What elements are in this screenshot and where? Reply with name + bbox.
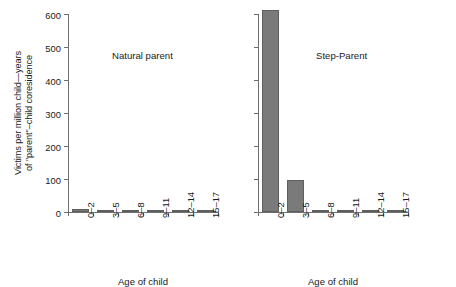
y-tick-label-0: 0 [56,207,61,218]
panel-natural-parent: 0100200300400500600 0–23–56–89–1112–1415… [68,14,218,212]
y-tick-label-300: 300 [45,108,61,119]
y-tick-400: 400 [64,80,68,81]
y-tick-100 [254,179,258,180]
y-tick-label-400: 400 [45,75,61,86]
x-label-3–5: 3–5 [300,202,311,218]
plot-area-step-parent [258,14,408,212]
y-tick-200: 200 [64,146,68,147]
panel-title-natural-parent: Natural parent [112,50,173,61]
y-tick-label-100: 100 [45,174,61,185]
x-label-3–5: 3–5 [110,202,121,218]
y-tick-300 [254,113,258,114]
y-tick-200 [254,146,258,147]
y-tick-100: 100 [64,179,68,180]
y-tick-600: 600 [64,14,68,15]
x-tick-0 [258,212,259,216]
y-tick-500 [254,47,258,48]
x-label-15–17: 15–17 [400,192,411,218]
x-axis-title-right: Age of child [258,276,408,287]
bar-step-parent-0–2 [262,10,279,212]
y-tick-label-500: 500 [45,42,61,53]
y-axis-title-line-1: Victims per million child—years [13,51,24,175]
x-label-9–11: 9–11 [350,198,361,218]
x-label-15–17: 15–17 [210,192,221,218]
y-tick-300: 300 [64,113,68,114]
x-tick-0 [68,212,69,216]
x-label-0–2: 0–2 [85,202,96,218]
x-label-9–11: 9–11 [160,198,171,218]
y-axis-title-line-2: of "parent"–child coresidence [24,55,35,171]
y-tick-label-600: 600 [45,9,61,20]
y-tick-600 [254,14,258,15]
x-label-6–8: 6–8 [135,202,146,218]
y-tick-400 [254,80,258,81]
x-axis-title-left: Age of child [68,276,218,287]
panel-step-parent: 0–23–56–89–1112–1415–17 Step-Parent Age … [258,14,408,212]
x-label-12–14: 12–14 [375,192,386,218]
plot-area-natural-parent: 0100200300400500600 [68,14,218,212]
x-label-12–14: 12–14 [185,192,196,218]
panel-title-step-parent: Step-Parent [316,50,367,61]
x-label-0–2: 0–2 [275,202,286,218]
y-tick-500: 500 [64,47,68,48]
y-tick-label-200: 200 [45,141,61,152]
x-label-6–8: 6–8 [325,202,336,218]
